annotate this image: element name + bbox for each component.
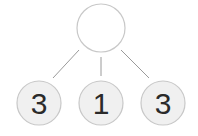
- whole-circle[interactable]: [77, 4, 125, 52]
- connector-right: [121, 50, 149, 78]
- number-bond-diagram: 3 1 3: [0, 0, 198, 136]
- part-value-right: 3: [155, 87, 172, 120]
- connector-left: [53, 50, 79, 78]
- part-value-middle: 1: [93, 87, 110, 120]
- part-value-left: 3: [31, 87, 48, 120]
